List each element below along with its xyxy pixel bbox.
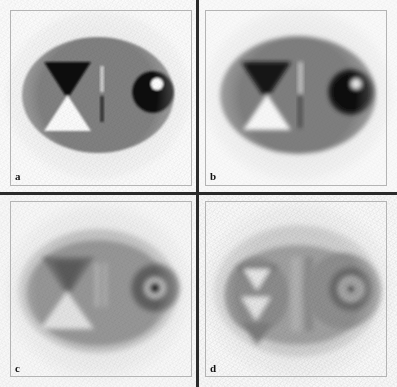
- reconstruction-image-b: [199, 0, 397, 192]
- panel-b[interactable]: b: [199, 0, 397, 192]
- reconstruction-image-a: [0, 0, 196, 192]
- panel-label-c: c: [15, 363, 20, 374]
- panel-a[interactable]: a: [0, 0, 196, 192]
- panel-label-b: b: [210, 171, 216, 182]
- reconstruction-image-c: [0, 195, 196, 387]
- reconstruction-image-d: [199, 195, 397, 387]
- figure-panel-grid: a: [0, 0, 397, 387]
- panel-label-d: d: [210, 363, 216, 374]
- panel-c[interactable]: c: [0, 195, 196, 387]
- panel-divider-horizontal: [0, 192, 397, 195]
- panel-label-a: a: [15, 171, 21, 182]
- panel-d[interactable]: d: [199, 195, 397, 387]
